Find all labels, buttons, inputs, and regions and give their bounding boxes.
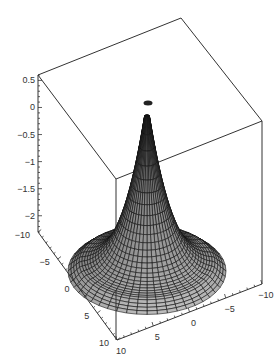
surface-plot: 0.50−0.5−1−1.5−2−10−505101050−5−10 [0, 0, 277, 358]
z-tick-label: −0.5 [17, 130, 35, 140]
x-tick-label: −5 [39, 257, 49, 267]
z-tick-label: −1 [25, 157, 35, 167]
y-tick-label: −10 [258, 290, 273, 300]
y-tick-label: 10 [116, 346, 126, 356]
x-tick-label: 5 [84, 311, 89, 321]
z-tick-label: −2 [25, 211, 35, 221]
x-tick-label: −10 [15, 230, 30, 240]
y-tick-label: 0 [191, 318, 196, 328]
surface-mesh [68, 101, 226, 315]
y-tick-label: 5 [155, 332, 160, 342]
z-tick-label: −1.5 [17, 184, 35, 194]
z-tick-label: 0.5 [22, 75, 35, 85]
y-tick-label: −5 [225, 304, 235, 314]
z-tick-label: 0 [30, 102, 35, 112]
x-tick-label: 10 [99, 338, 109, 348]
x-tick-label: 0 [64, 284, 69, 294]
